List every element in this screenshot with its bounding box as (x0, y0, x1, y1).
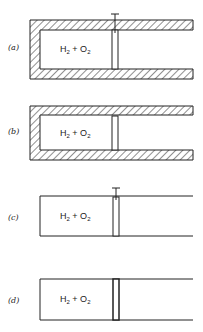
panel-label: (b) (8, 127, 19, 136)
gas-label: H2 + O2 (60, 211, 91, 222)
panel-label: (c) (8, 213, 19, 222)
panel-c: (c) H2 + O2 (8, 188, 193, 236)
panel-label: (d) (8, 296, 19, 305)
gas-label: H2 + O2 (60, 44, 91, 55)
panel-a: (a) H2 + O2 (8, 14, 193, 79)
piston (113, 279, 119, 320)
gas-label: H2 + O2 (60, 294, 91, 305)
gas-label: H2 + O2 (60, 128, 91, 139)
piston (112, 116, 118, 150)
piston (112, 30, 118, 69)
panel-b: (b) H2 + O2 (8, 106, 193, 160)
panel-d: (d) H2 + O2 (8, 279, 193, 320)
piston (113, 197, 119, 236)
panel-label: (a) (8, 43, 19, 52)
diagram: (a) H2 + O2 (b) H2 + O2 (c) H2 + O2 (d) (0, 0, 203, 332)
